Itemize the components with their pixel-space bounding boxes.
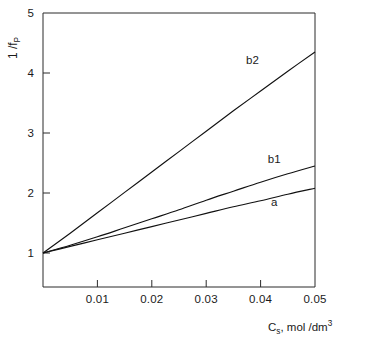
y-tick-label-5: 5	[27, 7, 34, 19]
x-tick-label-0.02: 0.02	[140, 293, 163, 305]
x-tick-label-0.03: 0.03	[195, 293, 218, 305]
series-label-a: a	[271, 196, 278, 208]
y-tick-label-3: 3	[27, 127, 34, 139]
y-tick-label-2: 2	[27, 187, 34, 199]
x-tick-label-0.05: 0.05	[303, 293, 326, 305]
x-tick-label-0.01: 0.01	[86, 293, 109, 305]
x-axis-title-superscript: 3	[328, 319, 333, 328]
y-tick-label-1: 1	[27, 247, 34, 259]
line-chart: 123450.010.020.030.040.05 ab1b2 1 /fP Cs…	[0, 0, 391, 345]
series-label-b2: b2	[246, 54, 259, 66]
y-axis-title-subscript: P	[13, 36, 22, 42]
x-tick-label-0.04: 0.04	[249, 293, 273, 305]
chart-figure: 123450.010.020.030.040.05 ab1b2 1 /fP Cs…	[0, 0, 391, 345]
series-label-b1: b1	[268, 153, 281, 165]
y-tick-label-4: 4	[27, 67, 34, 79]
